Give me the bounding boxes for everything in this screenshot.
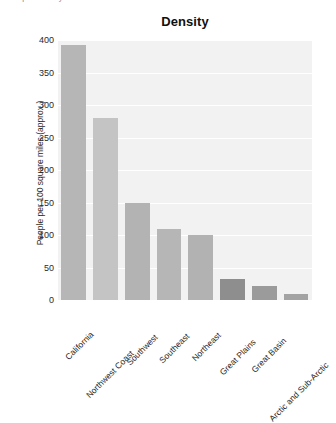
x-axis-tick-label: Arctic and Sub-Arctic — [267, 360, 330, 423]
x-axis-tick-label-text: Southeast — [157, 331, 191, 365]
bar[interactable] — [284, 294, 309, 301]
x-axis-tick-label: California — [63, 329, 95, 361]
y-axis-tick-label: 200 — [20, 165, 54, 175]
gridline — [58, 73, 312, 74]
plot-area — [58, 40, 312, 300]
y-axis-tick-label: 350 — [20, 68, 54, 78]
y-axis-tick-label: 400 — [20, 35, 54, 45]
y-axis-tick-label: 150 — [20, 198, 54, 208]
y-axis-tick-label: 100 — [20, 230, 54, 240]
x-axis-tick-label-text: Great Plains — [217, 337, 257, 377]
x-axis-tick-label-text: California — [63, 329, 95, 361]
x-axis-tick-label-text: Arctic and Sub-Arctic — [267, 360, 330, 423]
bar[interactable] — [220, 279, 245, 300]
x-axis-tick-label: Great Plains — [217, 337, 257, 377]
gridline — [58, 40, 312, 41]
bar[interactable] — [125, 203, 150, 301]
chart-title: Density — [58, 14, 312, 29]
bar[interactable] — [252, 286, 277, 300]
bar[interactable] — [93, 118, 118, 300]
y-axis-tick-label: 250 — [20, 133, 54, 143]
bar[interactable] — [157, 229, 182, 301]
y-axis-tick-label: 300 — [20, 100, 54, 110]
y-axis-tick-label: 0 — [20, 295, 54, 305]
y-axis-tick-label: 50 — [20, 263, 54, 273]
bar[interactable] — [188, 235, 213, 300]
x-axis-tick-label: Northeast — [190, 330, 223, 363]
x-axis-tick-label: Southeast — [157, 331, 191, 365]
gridline — [58, 105, 312, 106]
x-axis-tick-label-text: Northeast — [190, 330, 223, 363]
bar[interactable] — [61, 45, 86, 300]
